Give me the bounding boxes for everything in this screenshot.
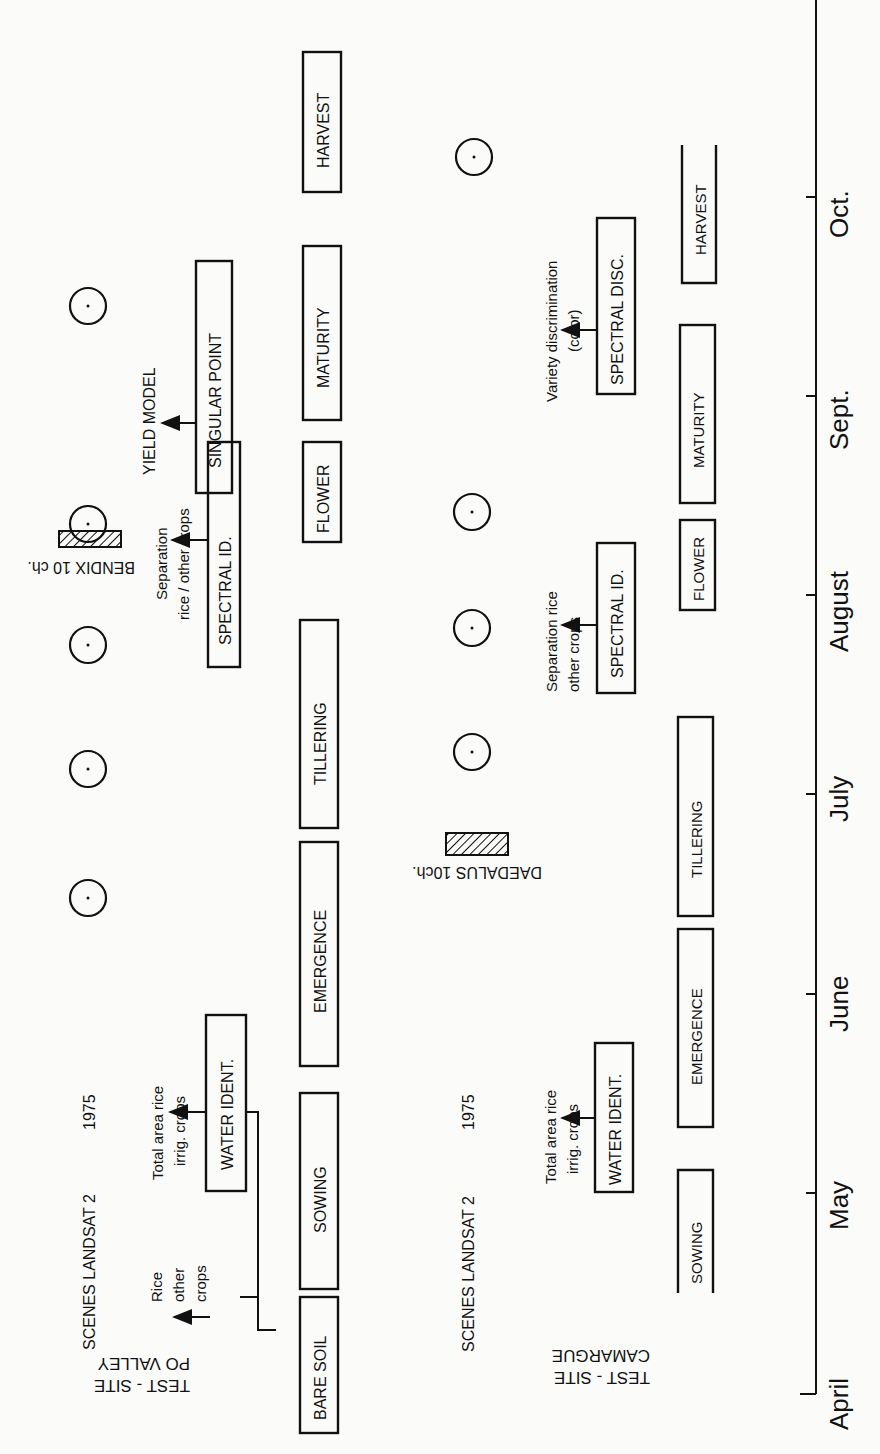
po-valley-landsat-passes (70, 288, 106, 916)
po-valley-yield-model-label: YIELD MODEL (141, 367, 158, 475)
po-valley-rice-note: Rice other crops (148, 1265, 209, 1302)
camargue-water-note: Total area rice irrig. crops (542, 1090, 581, 1184)
svg-text:Separation: Separation (153, 527, 170, 600)
camargue-disc-note: Variety discrimination (color) (543, 261, 582, 402)
daedalus-flight-icon (446, 833, 508, 855)
time-axis: April May June July August Sept. Oct. (800, 0, 854, 1430)
month-label-august: August (824, 570, 854, 652)
svg-text:crops: crops (192, 1265, 209, 1302)
po-valley-stages: BARE SOIL SOWING EMERGENCE TILLERING FLO… (300, 52, 341, 1433)
month-label-april: April (824, 1378, 854, 1430)
svg-text:SOWING: SOWING (312, 1166, 329, 1233)
svg-text:Variety discrimination: Variety discrimination (543, 261, 560, 402)
po-valley-scenes-label: SCENES LANDSAT 2 (81, 1194, 98, 1350)
svg-text:TEST - SITE: TEST - SITE (94, 1376, 190, 1395)
svg-text:TEST - SITE: TEST - SITE (554, 1368, 650, 1387)
svg-text:SOWING: SOWING (688, 1222, 705, 1285)
camargue-landsat-passes (454, 139, 492, 770)
svg-text:(color): (color) (565, 309, 582, 352)
month-label-may: May (824, 1181, 854, 1230)
po-valley-scenes-year: 1975 (81, 1094, 98, 1130)
svg-text:HARVEST: HARVEST (692, 184, 709, 255)
month-label-sept: Sept. (824, 389, 854, 450)
svg-text:MATURITY: MATURITY (315, 307, 332, 388)
month-label-june: June (824, 976, 854, 1032)
po-valley-spectral-id-label: SPECTRAL ID. (217, 536, 234, 645)
camargue-scenes-year: 1975 (460, 1094, 477, 1130)
crop-calendar-diagram: April May June July August Sept. Oct. TE… (0, 0, 880, 1454)
daedalus-sensor-label: DAEDALUS 10ch. (412, 864, 542, 881)
po-valley-singular-point-label: SINGULAR POINT (207, 333, 224, 468)
svg-text:irrig. crops: irrig. crops (171, 1096, 188, 1166)
camargue-scenes-label: SCENES LANDSAT 2 (460, 1196, 477, 1352)
camargue-water-ident-label: WATER IDENT. (607, 1074, 624, 1185)
svg-text:EMERGENCE: EMERGENCE (312, 910, 329, 1013)
camargue-spectral-note: Separation rice other crops (543, 591, 582, 692)
svg-text:Separation rice: Separation rice (543, 591, 560, 692)
camargue-site-label: TEST - SITE CAMARGUE (552, 1346, 650, 1387)
svg-text:EMERGENCE: EMERGENCE (688, 988, 705, 1085)
month-label-oct: Oct. (824, 190, 854, 238)
svg-text:Rice: Rice (148, 1272, 165, 1302)
svg-text:HARVEST: HARVEST (315, 92, 332, 168)
svg-text:TILLERING: TILLERING (688, 800, 705, 878)
month-label-july: July (824, 776, 854, 822)
camargue-spectral-disc-label: SPECTRAL DISC. (609, 254, 626, 385)
camargue-spectral-id-label: SPECTRAL ID. (609, 569, 626, 678)
svg-text:other crops: other crops (565, 617, 582, 692)
bendix-sensor-label: BENDIX 10 ch. (27, 559, 135, 576)
po-valley-spectral-note: Separation rice / other crops (153, 508, 192, 620)
bendix-flight-icon (59, 531, 121, 547)
svg-text:Total area rice: Total area rice (542, 1090, 559, 1184)
camargue-stages: SOWING EMERGENCE TILLERING FLOWER MATURI… (678, 145, 716, 1293)
svg-text:TILLERING: TILLERING (312, 702, 329, 785)
svg-text:other: other (170, 1268, 187, 1302)
svg-text:MATURITY: MATURITY (690, 392, 707, 468)
diagram-svg: April May June July August Sept. Oct. TE… (0, 0, 880, 1454)
svg-text:FLOWER: FLOWER (315, 465, 332, 533)
camargue-section: TEST - SITE CAMARGUE SCENES LANDSAT 2 19… (412, 139, 716, 1387)
po-valley-site-label: TEST - SITE PO VALLEY (94, 1354, 190, 1395)
svg-text:Total area rice: Total area rice (149, 1086, 166, 1180)
svg-text:PO VALLEY: PO VALLEY (98, 1354, 190, 1373)
svg-text:rice / other crops: rice / other crops (175, 508, 192, 620)
po-valley-section: TEST - SITE PO VALLEY SCENES LANDSAT 2 1… (27, 52, 341, 1433)
svg-text:FLOWER: FLOWER (690, 537, 707, 601)
svg-text:CAMARGUE: CAMARGUE (552, 1346, 650, 1365)
po-valley-water-ident-label: WATER IDENT. (219, 1059, 236, 1170)
svg-text:BARE SOIL: BARE SOIL (312, 1335, 329, 1420)
po-valley-water-note: Total area rice irrig. crops (149, 1086, 188, 1180)
svg-text:irrig. crops: irrig. crops (564, 1104, 581, 1174)
